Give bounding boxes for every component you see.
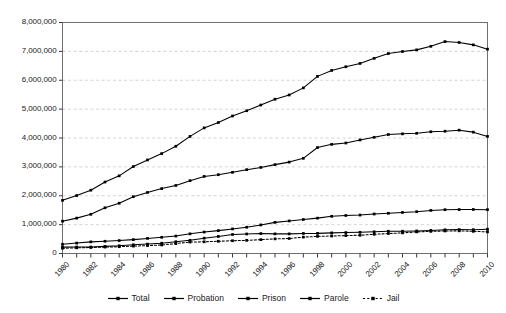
legend-swatch-jail-icon [362,294,384,303]
legend-item-prison: Prison [237,293,286,303]
y-axis-tick-label: 6,000,000 [0,75,57,84]
y-axis-tick-label: 1,000,000 [0,219,57,228]
legend-label: Total [132,293,150,303]
y-axis-tick-label: 3,000,000 [0,161,57,170]
legend-swatch-total-icon [107,294,129,303]
legend-item-total: Total [107,293,150,303]
y-axis-tick-label: 7,000,000 [0,46,57,55]
y-axis-tick-label: 2,000,000 [0,190,57,199]
legend-swatch-prison-icon [237,294,259,303]
legend-label: Prison [262,293,286,303]
y-axis-tick-label: 5,000,000 [0,104,57,113]
legend-item-parole: Parole [299,293,349,303]
legend-item-probation: Probation [163,293,224,303]
y-axis-tick-label: 4,000,000 [0,133,57,142]
y-axis-tick-label: 8,000,000 [0,17,57,26]
chart-container: 01,000,0002,000,0003,000,0004,000,0005,0… [0,0,506,313]
y-axis-tick-label: 0 [0,248,57,257]
legend-label: Probation [188,293,224,303]
legend-label: Jail [387,293,400,303]
legend-label: Parole [324,293,349,303]
chart-legend: TotalProbationPrisonParoleJail [0,288,506,308]
legend-swatch-parole-icon [299,294,321,303]
legend-swatch-probation-icon [163,294,185,303]
legend-item-jail: Jail [362,293,400,303]
